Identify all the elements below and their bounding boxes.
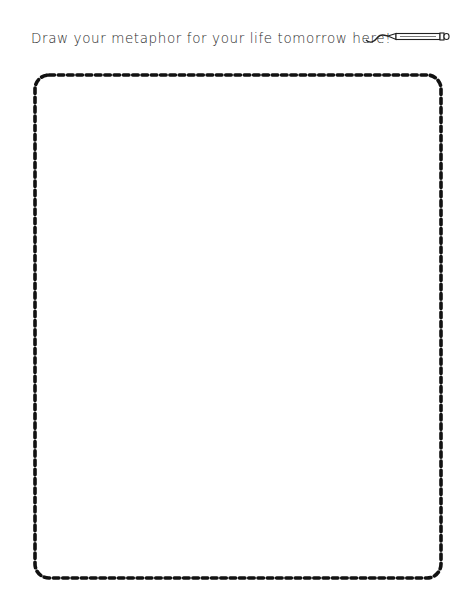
drawing-area[interactable] bbox=[32, 72, 444, 581]
worksheet-prompt: Draw your metaphor for your life tomorro… bbox=[31, 30, 391, 46]
pencil-icon bbox=[364, 30, 454, 46]
